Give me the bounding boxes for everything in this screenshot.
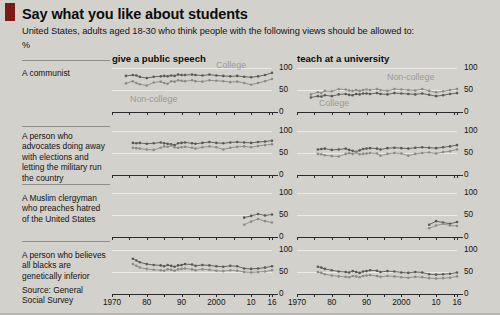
- row-divider: [22, 126, 110, 127]
- x-axis-tick: [297, 175, 298, 178]
- x-axis-line: [297, 294, 463, 295]
- y-tick-label-0: 0: [279, 289, 284, 298]
- series-point: [208, 264, 211, 267]
- series-plot: [112, 250, 272, 294]
- series-point: [435, 147, 438, 150]
- x-axis-tick: [332, 237, 333, 240]
- panel-military-speech: 050100: [112, 131, 272, 175]
- x-axis-tick: [367, 237, 368, 240]
- series-point: [135, 147, 138, 150]
- series-point: [414, 146, 417, 149]
- series-point: [222, 75, 225, 78]
- series-point: [362, 89, 365, 92]
- series-point: [177, 79, 180, 82]
- series-plot: [297, 131, 457, 175]
- x-axis-tick: [129, 294, 130, 297]
- series-point: [337, 88, 340, 91]
- x-axis-tick: [216, 294, 217, 297]
- series-point: [208, 73, 211, 76]
- source-note: Source: General Social Survey: [22, 285, 83, 306]
- series-point: [184, 267, 187, 270]
- x-axis-tick: [454, 237, 455, 240]
- series-point: [170, 80, 173, 83]
- series-plot: [112, 193, 272, 237]
- row-label-racist: A person who believes all blacks are gen…: [22, 250, 106, 281]
- series-point: [393, 92, 396, 95]
- row-label-muslim: A Muslim clergyman who preaches hatred o…: [22, 193, 106, 224]
- series-point: [236, 141, 239, 144]
- series-point: [250, 271, 253, 274]
- series-point: [125, 75, 128, 78]
- series-point: [257, 271, 260, 274]
- x-axis-line: [112, 237, 278, 238]
- row-divider: [22, 60, 110, 61]
- series-point: [421, 152, 424, 155]
- y-tick-label-0: 0: [279, 107, 284, 116]
- series-point: [393, 152, 396, 155]
- series-point: [208, 145, 211, 148]
- series-point: [362, 275, 365, 278]
- series-point: [191, 268, 194, 271]
- series-point: [201, 264, 204, 267]
- series-point: [159, 146, 162, 149]
- series-point: [337, 155, 340, 158]
- series-point: [264, 220, 267, 223]
- series-point: [400, 92, 403, 95]
- series-point: [348, 276, 351, 279]
- series-point: [139, 261, 142, 264]
- x-tick-label: 90: [362, 298, 371, 307]
- x-tick-label: 1970: [288, 298, 306, 307]
- series-point: [365, 147, 368, 150]
- x-axis-tick: [384, 112, 385, 115]
- x-axis-tick: [269, 237, 270, 240]
- x-axis-tick: [269, 294, 270, 297]
- x-axis-tick: [401, 294, 402, 297]
- series-point: [166, 268, 169, 271]
- row-divider: [22, 184, 110, 185]
- y-tick-label-0: 0: [279, 232, 284, 241]
- series-point: [236, 265, 239, 268]
- series-point: [365, 152, 368, 155]
- series-point: [351, 275, 354, 278]
- series-point: [330, 274, 333, 277]
- series-point: [135, 74, 138, 77]
- series-point: [191, 263, 194, 266]
- series-point: [428, 273, 431, 276]
- series-point: [428, 90, 431, 93]
- series-point: [194, 147, 197, 150]
- series-point: [330, 155, 333, 158]
- y-tick-label-0: 0: [464, 170, 469, 179]
- x-axis-line: [297, 175, 463, 176]
- x-axis-tick: [164, 175, 165, 178]
- series-point: [330, 149, 333, 152]
- series-point: [215, 74, 218, 77]
- series-point: [337, 275, 340, 278]
- series-point: [201, 142, 204, 145]
- x-axis-tick: [199, 175, 200, 178]
- panel-communist-speech: 050100CollegeNon-college: [112, 68, 272, 112]
- x-axis-tick: [182, 175, 183, 178]
- x-axis-tick: [234, 294, 235, 297]
- series-point: [180, 264, 183, 267]
- y-tick-label-0: 0: [279, 170, 284, 179]
- series-point: [400, 88, 403, 91]
- series-point: [163, 82, 166, 85]
- series-point: [201, 74, 204, 77]
- series-point: [358, 90, 361, 93]
- panel-communist-teach: 050100Non-collegeCollege: [297, 68, 457, 112]
- series-point: [320, 148, 323, 151]
- x-axis-tick: [367, 175, 368, 178]
- panel-racist-speech: 0501001970809020001016: [112, 250, 272, 294]
- series-point: [173, 80, 176, 83]
- x-axis-tick: [216, 112, 217, 115]
- series-point: [177, 73, 180, 76]
- series-point: [250, 142, 253, 145]
- x-axis-tick: [147, 112, 148, 115]
- series-point: [152, 142, 155, 145]
- x-axis-tick: [367, 112, 368, 115]
- series-point: [456, 221, 459, 224]
- x-axis-tick: [112, 112, 113, 115]
- series-point: [386, 93, 389, 96]
- series-point: [145, 148, 148, 151]
- x-axis-tick: [129, 175, 130, 178]
